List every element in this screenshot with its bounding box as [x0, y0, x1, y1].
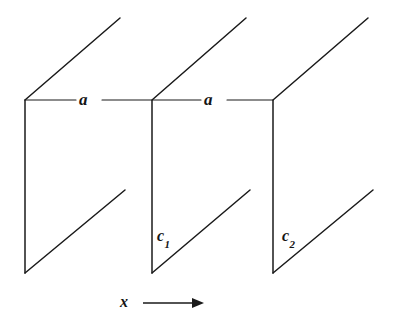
plane-label-c2: c2 [282, 228, 295, 247]
x-axis-arrow-head [192, 298, 204, 308]
plane-label-c2-subscript: 2 [290, 238, 296, 250]
plane-middle-top-diagonal-edge [152, 18, 246, 100]
figure-container: a a c1 c2 x [0, 0, 393, 328]
axis-label-x: x [120, 294, 128, 310]
plane-diagram-svg [0, 0, 393, 328]
plane-label-c1-subscript: 1 [165, 238, 171, 250]
plane-label-c1: c1 [157, 228, 170, 247]
plane-label-c1-symbol: c [157, 227, 164, 244]
plane-left-top-diagonal-edge [25, 18, 120, 100]
plane-label-c2-symbol: c [282, 227, 289, 244]
spacing-label-right: a [204, 91, 213, 108]
plane-left [25, 18, 125, 273]
plane-left-bottom-diagonal-edge [25, 190, 125, 273]
spacing-label-left: a [79, 91, 88, 108]
plane-right-top-diagonal-edge [273, 18, 368, 100]
x-axis-arrow [143, 298, 204, 308]
